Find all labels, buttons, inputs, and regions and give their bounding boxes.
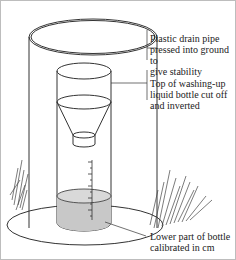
water-level: [57, 189, 111, 231]
label-calibrated-bottle: Lower part of bottle calibrated in cm: [150, 231, 230, 253]
label-inverted-bottle-top: Top of washing-up liquid bottle cut off …: [150, 78, 227, 111]
label-drain-pipe: Plastic drain pipe pressed into ground t…: [150, 33, 236, 77]
